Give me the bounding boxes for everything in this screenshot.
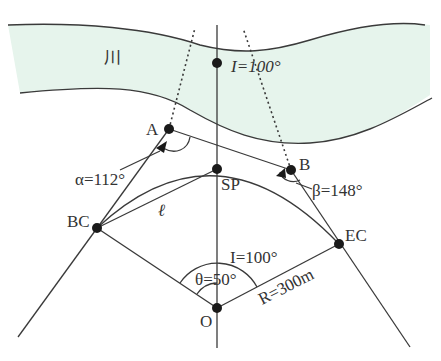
beta-leader-line — [296, 183, 312, 189]
point-EC — [334, 239, 344, 249]
point-BC — [92, 223, 102, 233]
label-BC: BC — [67, 212, 90, 231]
label-EC: EC — [345, 226, 367, 245]
label-SP: SP — [221, 175, 240, 194]
point-O — [212, 303, 222, 313]
beta-arrowhead-icon — [276, 168, 286, 178]
label-alpha: α=112° — [75, 170, 125, 189]
curve-survey-diagram: 川 I=100° A B SP BC EC O α=112° β=148° θ=… — [0, 0, 441, 361]
alpha-arrowhead-icon — [156, 141, 167, 153]
point-I — [212, 58, 222, 68]
label-I: I=100° — [230, 57, 281, 76]
left-tangent-line — [18, 129, 169, 337]
point-B — [286, 165, 296, 175]
label-chord-length: ℓ — [158, 201, 165, 220]
label-O: O — [200, 312, 212, 331]
label-A: A — [146, 120, 159, 139]
radius-O-BC — [97, 228, 217, 308]
label-theta: θ=50° — [195, 270, 237, 289]
point-SP — [212, 164, 222, 174]
label-B: B — [299, 155, 310, 174]
label-beta: β=148° — [312, 181, 363, 200]
alpha-leader-line — [120, 151, 160, 170]
point-A — [164, 124, 174, 134]
alpha-angle-arc — [163, 137, 190, 151]
label-central-I: I=100° — [230, 248, 278, 267]
river-label: 川 — [104, 48, 121, 67]
river: 川 — [8, 23, 432, 143]
